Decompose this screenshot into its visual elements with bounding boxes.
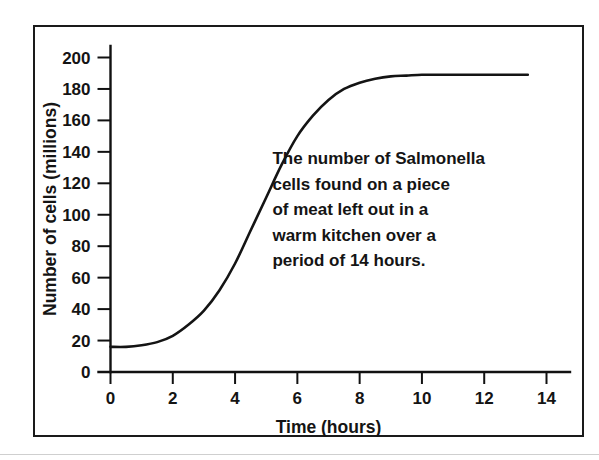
- x-tick-label: 0: [106, 389, 115, 408]
- annotation-line: warm kitchen over a: [271, 226, 436, 245]
- x-axis-tick-labels: 02468101214: [106, 389, 557, 408]
- annotation-line: period of 14 hours.: [272, 251, 425, 270]
- y-tick-label: 20: [72, 332, 91, 351]
- x-tick-label: 2: [168, 389, 177, 408]
- y-axis-tick-labels: 020406080100120140160180200: [62, 49, 90, 383]
- x-tick-label: 6: [293, 389, 302, 408]
- annotation-line: cells found on a piece: [272, 175, 450, 194]
- y-tick-label: 180: [62, 80, 90, 99]
- y-tick-label: 160: [62, 111, 90, 130]
- growth-curve-chart: 020406080100120140160180200 02468101214 …: [0, 0, 599, 460]
- y-tick-label: 40: [72, 300, 91, 319]
- x-tick-label: 4: [230, 389, 240, 408]
- y-tick-label: 120: [62, 174, 90, 193]
- x-tick-label: 12: [475, 389, 494, 408]
- x-tick-label: 8: [355, 389, 364, 408]
- annotation-line: of meat left out in a: [272, 200, 428, 219]
- y-axis-title: Number of cells (millions): [40, 102, 60, 316]
- y-tick-label: 60: [72, 269, 91, 288]
- y-tick-label: 0: [81, 363, 90, 382]
- x-tick-label: 14: [537, 389, 556, 408]
- y-tick-label: 140: [62, 143, 90, 162]
- x-tick-label: 10: [412, 389, 431, 408]
- y-tick-label: 100: [62, 206, 90, 225]
- annotation-line: The number of Salmonella: [272, 149, 485, 168]
- figure-page: 020406080100120140160180200 02468101214 …: [0, 0, 599, 460]
- x-axis-title: Time (hours): [276, 417, 382, 437]
- y-tick-label: 200: [62, 49, 90, 68]
- chart-annotation: The number of Salmonellacells found on a…: [271, 149, 485, 270]
- y-tick-label: 80: [72, 237, 91, 256]
- page-rule-artifact: [0, 454, 599, 455]
